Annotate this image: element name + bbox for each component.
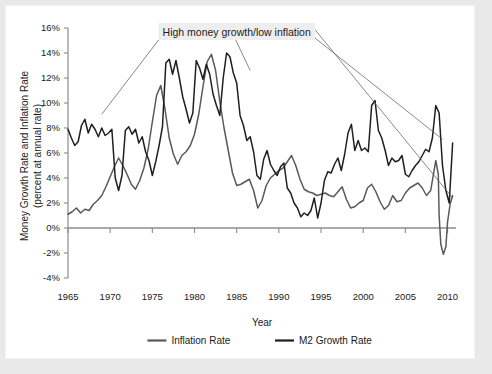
series-line-m2-growth-rate — [68, 53, 453, 218]
y-tick-label: 12% — [41, 72, 61, 83]
x-tick-label: 1980 — [184, 291, 205, 302]
y-tick-label: -2% — [43, 247, 60, 258]
y-tick-label: 6% — [46, 147, 60, 158]
y-tick-label: 16% — [41, 22, 61, 33]
y-axis-label: Money Growth Rate and Inflation Rate (pe… — [19, 71, 43, 242]
x-tick-label: 1985 — [226, 291, 247, 302]
y-tick-label: 0% — [46, 222, 60, 233]
chart-figure: Money Growth Rate and Inflation Rate (pe… — [6, 6, 474, 358]
legend-label: M2 Growth Rate — [299, 335, 372, 346]
x-axis-ticks: 1965197019751980198519901995200020052010 — [57, 228, 458, 302]
y-axis-label-line1: Money Growth Rate and Inflation Rate — [19, 71, 30, 242]
legend-label: Inflation Rate — [171, 335, 230, 346]
x-tick-label: 1965 — [57, 291, 78, 302]
y-tick-label: 2% — [46, 197, 60, 208]
y-tick-label: 4% — [46, 172, 60, 183]
annotation-high-money-growth: High money growth/low inflation — [159, 23, 315, 40]
x-tick-label: 2000 — [353, 291, 374, 302]
y-axis-ticks: -4%-2%0%2%4%6%8%10%12%14%16% — [41, 22, 68, 283]
y-tick-label: 10% — [41, 97, 61, 108]
x-tick-label: 1990 — [268, 291, 289, 302]
x-axis-label: Year — [252, 317, 273, 328]
leader-line — [236, 40, 250, 71]
series-line-inflation-rate — [68, 54, 453, 254]
leader-line — [102, 40, 159, 114]
y-tick-label: 8% — [46, 122, 60, 133]
line-chart: Money Growth Rate and Inflation Rate (pe… — [6, 6, 474, 358]
chart-card: Money Growth Rate and Inflation Rate (pe… — [6, 6, 474, 358]
x-tick-label: 1970 — [100, 291, 121, 302]
y-tick-label: -4% — [43, 272, 60, 283]
x-tick-label: 1995 — [310, 291, 331, 302]
y-axis-label-line2: (percent at annual rate) — [32, 104, 43, 208]
annotation-label: High money growth/low inflation — [163, 26, 311, 38]
x-tick-label: 2010 — [437, 291, 458, 302]
y-tick-label: 14% — [41, 47, 61, 58]
leader-line — [315, 30, 453, 198]
chart-legend: Inflation RateM2 Growth Rate — [147, 335, 372, 346]
x-tick-label: 1975 — [142, 291, 163, 302]
x-tick-label: 2005 — [395, 291, 416, 302]
